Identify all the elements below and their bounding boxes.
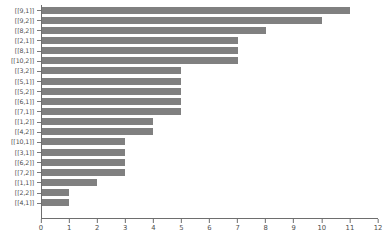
y-axis-tick-label: [[2,2]] (0, 188, 38, 198)
x-axis-tick-mark (209, 219, 210, 223)
bar (41, 78, 181, 85)
y-axis-tick-label-text: [[9,1]] (15, 7, 34, 14)
x-axis-tick-label: 12 (374, 224, 383, 232)
bar (41, 27, 266, 34)
bar-row (41, 86, 378, 96)
y-axis-tick-labels: [[9,1]][[9,2]][[8,2]][[2,1]][[8,1]][[10,… (0, 5, 38, 218)
bar-row (41, 188, 378, 198)
y-axis-tick-label: [[3,2]] (0, 66, 38, 76)
x-axis-tick-mark (237, 219, 238, 223)
x-axis-tick: 1 (67, 219, 71, 232)
x-axis-tick-mark (181, 219, 182, 223)
bar-row (41, 5, 378, 15)
x-axis-tick-mark (293, 219, 294, 223)
y-axis-tick-label-text: [[8,2]] (15, 27, 34, 34)
y-axis-tick-label: [[10,1]] (0, 137, 38, 147)
bar (41, 179, 97, 186)
y-axis-tick-label-text: [[1,1]] (15, 179, 34, 186)
y-axis-tick-label-text: [[7,2]] (15, 169, 34, 176)
x-axis-tick-mark (321, 219, 322, 223)
bar (41, 57, 238, 64)
bar-row (41, 117, 378, 127)
y-axis-tick-label: [[5,2]] (0, 86, 38, 96)
x-axis-tick-mark (265, 219, 266, 223)
x-axis-tick: 5 (179, 219, 183, 232)
y-axis-tick-label: [[4,1]] (0, 198, 38, 208)
y-axis-tick-label: [[7,2]] (0, 167, 38, 177)
x-axis-tick: 2 (95, 219, 99, 232)
y-axis-tick-label: [[4,2]] (0, 127, 38, 137)
y-axis-tick-label: [[6,1]] (0, 96, 38, 106)
x-axis-tick: 8 (263, 219, 267, 232)
bar (41, 159, 125, 166)
x-axis-tick-label: 10 (318, 224, 327, 232)
y-axis-tick-label: [[5,1]] (0, 76, 38, 86)
x-axis-tick-label: 2 (95, 224, 99, 232)
y-axis-tick-label-text: [[2,2]] (15, 189, 34, 196)
y-axis-tick-label: [[7,1]] (0, 106, 38, 116)
x-axis-tick: 6 (207, 219, 211, 232)
y-axis-tick-label-text: [[5,1]] (15, 78, 34, 85)
y-axis-tick-label: [[2,1]] (0, 35, 38, 45)
y-axis-tick-label-text: [[9,2]] (15, 17, 34, 24)
x-axis-tick: 4 (151, 219, 155, 232)
bar-row (41, 147, 378, 157)
bar (41, 108, 181, 115)
y-axis-line (41, 5, 42, 218)
bar (41, 7, 350, 14)
y-axis-tick-label: [[1,2]] (0, 117, 38, 127)
y-axis-tick-label-text: [[4,2]] (15, 128, 34, 135)
bar-row (41, 35, 378, 45)
plot-area (41, 5, 378, 218)
x-axis-tick-label: 8 (263, 224, 267, 232)
x-axis-tick-mark (69, 219, 70, 223)
y-axis-tick-label-text: [[10,1]] (11, 138, 34, 145)
bar-row (41, 46, 378, 56)
bar-row (41, 127, 378, 137)
bar-row (41, 137, 378, 147)
bar-row (41, 66, 378, 76)
bar (41, 189, 69, 196)
y-axis-tick-label-text: [[4,1]] (15, 199, 34, 206)
x-axis-tick-mark (40, 219, 41, 223)
bar-row (41, 167, 378, 177)
bar (41, 128, 153, 135)
x-axis-tick: 11 (346, 219, 355, 232)
bar (41, 37, 238, 44)
bar (41, 138, 125, 145)
bar-rows (41, 5, 378, 218)
y-axis-tick-label-text: [[3,2]] (15, 67, 34, 74)
x-axis-tick: 9 (292, 219, 296, 232)
y-axis-tick-label: [[9,1]] (0, 5, 38, 15)
x-axis-tick-mark (125, 219, 126, 223)
y-axis-tick-label: [[3,1]] (0, 147, 38, 157)
y-axis-tick-label-text: [[8,1]] (15, 47, 34, 54)
y-axis-tick-label: [[8,1]] (0, 46, 38, 56)
y-axis-tick-label: [[1,1]] (0, 177, 38, 187)
y-axis-tick-label-text: [[2,1]] (15, 37, 34, 44)
x-axis-tick-label: 9 (292, 224, 296, 232)
x-axis-tick-mark (153, 219, 154, 223)
bar (41, 67, 181, 74)
bar (41, 169, 125, 176)
x-axis-tick-label: 6 (207, 224, 211, 232)
bar (41, 149, 125, 156)
bar (41, 17, 322, 24)
y-axis-tick-label: [[10,2]] (0, 56, 38, 66)
x-axis-tick-mark (378, 219, 379, 223)
y-axis-tick-label-text: [[10,2]] (11, 57, 34, 64)
bar (41, 47, 238, 54)
x-axis-tick-label: 4 (151, 224, 155, 232)
y-axis-tick-label-text: [[6,2]] (15, 159, 34, 166)
x-axis-tick-label: 3 (123, 224, 127, 232)
x-axis-tick-label: 5 (179, 224, 183, 232)
bar (41, 98, 181, 105)
y-axis-tick-label-text: [[6,1]] (15, 98, 34, 105)
x-axis-tick-label: 7 (235, 224, 239, 232)
x-axis-tick-mark (349, 219, 350, 223)
x-axis-tick: 3 (123, 219, 127, 232)
bar-row (41, 106, 378, 116)
bar-row (41, 198, 378, 208)
y-axis-tick-label-text: [[5,2]] (15, 88, 34, 95)
bar-row (41, 177, 378, 187)
